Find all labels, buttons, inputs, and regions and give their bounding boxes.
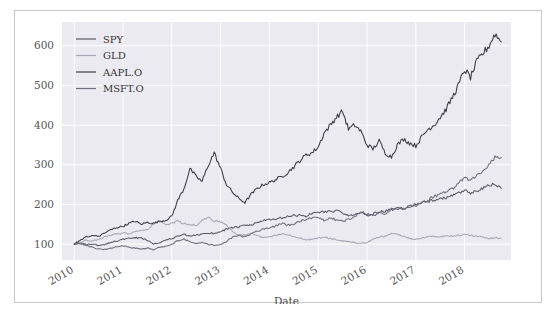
x-axis-tick-label: 2016 [339, 263, 368, 287]
x-axis-tick-label: 2010 [46, 263, 75, 287]
legend-label-spy: SPY [103, 34, 124, 45]
legend-label-aapl-o: AAPL.O [102, 67, 142, 78]
legend-label-gld: GLD [103, 50, 126, 61]
y-axis-tick-label: 400 [34, 119, 54, 131]
chart-figure: 1002003004005006002010201120122013201420… [14, 10, 542, 303]
x-axis-tick-label: 2014 [241, 263, 270, 287]
x-axis-tick-label: 2011 [95, 263, 124, 287]
x-axis-tick-label: 2015 [290, 263, 319, 287]
x-axis-tick-label: 2012 [144, 263, 173, 287]
y-axis-tick-label: 500 [34, 79, 54, 91]
x-axis-title: Date [274, 295, 299, 304]
line-chart: 1002003004005006002010201120122013201420… [15, 11, 543, 304]
x-axis-tick-label: 2018 [436, 263, 465, 287]
y-axis-tick-label: 200 [34, 198, 54, 210]
y-axis-tick-label: 100 [34, 238, 54, 250]
x-axis-tick-label: 2013 [192, 263, 221, 287]
plot-background [62, 22, 511, 260]
legend-label-msft-o: MSFT.O [103, 83, 144, 94]
y-axis-tick-label: 300 [34, 158, 54, 170]
x-axis-tick-label: 2017 [388, 263, 417, 287]
y-axis-tick-label: 600 [34, 39, 54, 51]
